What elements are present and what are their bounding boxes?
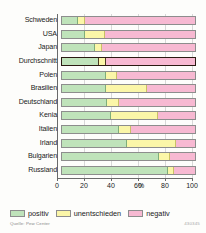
row-label-brasilien: Brasilien bbox=[0, 85, 61, 92]
stacked-bar bbox=[61, 139, 196, 148]
bar-wrapper bbox=[61, 111, 196, 120]
stacked-bar bbox=[61, 84, 196, 93]
legend-swatch-negativ bbox=[128, 210, 143, 217]
x-axis-unit: % bbox=[138, 182, 144, 189]
chart-row: Japan bbox=[0, 41, 206, 55]
x-tick-0 bbox=[57, 178, 58, 181]
chart-rows: SchwedenUSAJapanDurchschnittPolenBrasili… bbox=[0, 14, 206, 177]
row-label-bulgarien: Bulgarien bbox=[0, 153, 61, 160]
bar-segment-unentschieden bbox=[78, 17, 85, 24]
row-label-usa: USA bbox=[0, 31, 61, 38]
chart-row: USA bbox=[0, 28, 206, 42]
stacked-bar bbox=[61, 71, 196, 80]
chart-row: Russland bbox=[0, 164, 206, 178]
bar-segment-positiv bbox=[62, 126, 119, 133]
x-axis-line bbox=[57, 178, 192, 179]
stacked-bar bbox=[61, 43, 196, 52]
bar-wrapper bbox=[61, 84, 196, 93]
bar-wrapper bbox=[61, 125, 196, 134]
x-tick-60 bbox=[138, 178, 139, 181]
stacked-bar bbox=[61, 16, 196, 25]
bar-segment-negativ bbox=[102, 44, 195, 51]
chart-row: Polen bbox=[0, 68, 206, 82]
bar-segment-negativ bbox=[117, 72, 195, 79]
x-tick-label-20: 20 bbox=[80, 182, 88, 189]
stacked-bar bbox=[61, 152, 196, 161]
bar-segment-positiv bbox=[62, 112, 111, 119]
x-tick-label-40: 40 bbox=[107, 182, 115, 189]
bar-segment-unentschieden bbox=[106, 72, 117, 79]
bar-segment-unentschieden bbox=[106, 85, 147, 92]
stacked-bar bbox=[61, 125, 196, 134]
bar-segment-positiv bbox=[62, 58, 99, 65]
bar-segment-positiv bbox=[62, 17, 78, 24]
x-tick-20 bbox=[84, 178, 85, 181]
row-label-durchschnitt: Durchschnitt bbox=[0, 58, 61, 65]
legend-label-unentschieden: unentschieden bbox=[74, 209, 121, 218]
x-tick-40 bbox=[111, 178, 112, 181]
bar-wrapper bbox=[61, 57, 196, 66]
bar-segment-negativ bbox=[119, 99, 195, 106]
chart-legend: positiv unentschieden negativ bbox=[10, 209, 200, 218]
row-label-deutschland: Deutschland bbox=[0, 99, 61, 106]
row-label-japan: Japan bbox=[0, 44, 61, 51]
chart-row: Irland bbox=[0, 136, 206, 150]
bar-segment-negativ bbox=[105, 31, 195, 38]
stacked-bar bbox=[61, 166, 196, 175]
chart-row: Bulgarien bbox=[0, 150, 206, 164]
bar-segment-positiv bbox=[62, 72, 106, 79]
bar-wrapper bbox=[61, 139, 196, 148]
bar-wrapper bbox=[61, 30, 196, 39]
bar-segment-negativ bbox=[176, 140, 195, 147]
bar-segment-negativ bbox=[170, 153, 195, 160]
x-tick-label-0: 0 bbox=[55, 182, 59, 189]
bar-segment-negativ bbox=[85, 17, 195, 24]
legend-swatch-unentschieden bbox=[56, 210, 71, 217]
legend-label-positiv: positiv bbox=[28, 209, 49, 218]
bar-segment-negativ bbox=[158, 112, 195, 119]
bar-segment-negativ bbox=[147, 85, 195, 92]
stacked-bar bbox=[61, 30, 196, 39]
bar-wrapper bbox=[61, 152, 196, 161]
bar-segment-positiv bbox=[62, 44, 95, 51]
bar-wrapper bbox=[61, 166, 196, 175]
chart-row: Deutschland bbox=[0, 96, 206, 110]
x-tick-label-80: 80 bbox=[161, 182, 169, 189]
row-label-irland: Irland bbox=[0, 140, 61, 147]
x-tick-100 bbox=[192, 178, 193, 181]
bar-wrapper bbox=[61, 43, 196, 52]
legend-item-negativ: negativ bbox=[128, 209, 170, 218]
bar-wrapper bbox=[61, 71, 196, 80]
chart-row: Kenia bbox=[0, 109, 206, 123]
chart-row: Schweden bbox=[0, 14, 206, 28]
legend-item-unentschieden: unentschieden bbox=[56, 209, 121, 218]
stacked-bar-chart: SchwedenUSAJapanDurchschnittPolenBrasili… bbox=[0, 0, 206, 233]
row-label-polen: Polen bbox=[0, 72, 61, 79]
bar-segment-unentschieden bbox=[99, 58, 106, 65]
chart-row: Italien bbox=[0, 123, 206, 137]
bar-segment-unentschieden bbox=[107, 99, 119, 106]
row-label-italien: Italien bbox=[0, 126, 61, 133]
legend-swatch-positiv bbox=[10, 210, 25, 217]
row-label-schweden: Schweden bbox=[0, 17, 61, 24]
chart-row: Durchschnitt bbox=[0, 55, 206, 69]
stacked-bar bbox=[61, 98, 196, 107]
chart-row: Brasilien bbox=[0, 82, 206, 96]
legend-item-positiv: positiv bbox=[10, 209, 49, 218]
bar-segment-unentschieden bbox=[95, 44, 102, 51]
bar-segment-unentschieden bbox=[159, 153, 170, 160]
bar-segment-unentschieden bbox=[119, 126, 131, 133]
chart-image-id: 430345 bbox=[184, 221, 200, 226]
bar-segment-unentschieden bbox=[85, 31, 105, 38]
bar-segment-negativ bbox=[131, 126, 195, 133]
x-tick-80 bbox=[165, 178, 166, 181]
row-label-russland: Russland bbox=[0, 167, 61, 174]
bar-segment-positiv bbox=[62, 140, 127, 147]
x-axis: 020406080100 bbox=[57, 178, 192, 196]
bar-segment-unentschieden bbox=[111, 112, 158, 119]
row-label-kenia: Kenia bbox=[0, 112, 61, 119]
bar-wrapper bbox=[61, 16, 196, 25]
bar-segment-positiv bbox=[62, 99, 107, 106]
x-tick-label-100: 100 bbox=[186, 182, 198, 189]
bar-segment-positiv bbox=[62, 167, 168, 174]
